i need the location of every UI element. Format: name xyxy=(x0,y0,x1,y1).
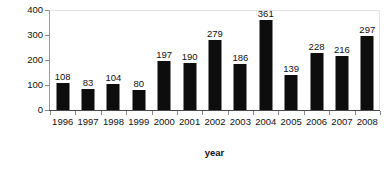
x-axis-tick-mark xyxy=(101,111,102,115)
bar-group: 104 xyxy=(101,10,126,110)
y-axis-tick-labels: 0100200300400 xyxy=(18,0,43,174)
bar xyxy=(259,20,272,110)
x-axis-tick-mark xyxy=(278,111,279,115)
x-axis-tick-label: 2003 xyxy=(230,116,251,127)
x-axis-tick-label: 2008 xyxy=(357,116,378,127)
x-axis-tick-label: 2000 xyxy=(154,116,175,127)
bar-group: 216 xyxy=(329,10,354,110)
y-axis-tick-label: 0 xyxy=(18,105,43,115)
bar-group: 361 xyxy=(253,10,278,110)
x-axis-tick-label: 1998 xyxy=(103,116,124,127)
bar-value-label: 186 xyxy=(232,53,248,63)
bar-group: 279 xyxy=(202,10,227,110)
x-axis-tick-labels: 1996199719981999200020012002200320042005… xyxy=(50,116,380,130)
x-axis-tick-mark xyxy=(380,111,381,115)
y-axis-tick-label: 100 xyxy=(18,80,43,90)
y-axis-tick-label: 200 xyxy=(18,55,43,65)
bar xyxy=(107,84,120,110)
x-axis-tick-mark xyxy=(228,111,229,115)
x-axis-tick-label: 2002 xyxy=(204,116,225,127)
y-axis-tick-label: 300 xyxy=(18,30,43,40)
bar xyxy=(183,63,196,111)
x-axis-tick-label: 1996 xyxy=(52,116,73,127)
bar-group: 80 xyxy=(126,10,151,110)
bar-value-label: 297 xyxy=(359,25,375,35)
bar-group: 228 xyxy=(304,10,329,110)
x-axis-tick-mark xyxy=(253,111,254,115)
bar-value-label: 104 xyxy=(106,73,122,83)
x-axis-tick-label: 2004 xyxy=(255,116,276,127)
bar-value-label: 228 xyxy=(309,42,325,52)
x-axis-tick-mark xyxy=(355,111,356,115)
bar xyxy=(361,36,374,110)
bar xyxy=(310,53,323,110)
bar-value-label: 80 xyxy=(134,79,145,89)
y-axis-tick-label: 400 xyxy=(18,5,43,15)
x-axis-tick-mark xyxy=(202,111,203,115)
bar xyxy=(208,40,221,110)
bars-container: 1088310480197190279186361139228216297 xyxy=(50,10,380,110)
x-axis-line xyxy=(49,110,380,111)
bar-group: 139 xyxy=(278,10,303,110)
bar-chart: Number of cases 0100200300400 1088310480… xyxy=(0,0,384,174)
bar-value-label: 279 xyxy=(207,29,223,39)
bar-value-label: 190 xyxy=(182,52,198,62)
bar-group: 108 xyxy=(50,10,75,110)
bar-value-label: 108 xyxy=(55,72,71,82)
x-axis-tick-mark xyxy=(75,111,76,115)
bar xyxy=(132,90,145,110)
bar xyxy=(285,75,298,110)
bar-group: 186 xyxy=(228,10,253,110)
bar xyxy=(82,89,95,110)
bar-value-label: 361 xyxy=(258,9,274,19)
x-axis-tick-mark xyxy=(126,111,127,115)
bar xyxy=(56,83,69,110)
x-axis-tick-label: 1997 xyxy=(77,116,98,127)
bar-value-label: 83 xyxy=(83,78,94,88)
x-axis-tick-label: 2006 xyxy=(306,116,327,127)
bar-group: 190 xyxy=(177,10,202,110)
bar-value-label: 197 xyxy=(156,50,172,60)
x-axis-tick-mark xyxy=(329,111,330,115)
x-axis-tick-mark xyxy=(50,111,51,115)
x-axis-tick-mark xyxy=(304,111,305,115)
bar-group: 83 xyxy=(75,10,100,110)
x-axis-tick-label: 2007 xyxy=(331,116,352,127)
x-axis-tick-label: 2005 xyxy=(281,116,302,127)
x-axis-tick-label: 2001 xyxy=(179,116,200,127)
bar xyxy=(158,61,171,110)
bar-group: 197 xyxy=(152,10,177,110)
x-axis-tick-mark xyxy=(152,111,153,115)
bar-group: 297 xyxy=(355,10,380,110)
x-axis-title: year xyxy=(49,147,380,158)
x-axis-tick-label: 1999 xyxy=(128,116,149,127)
bar-value-label: 216 xyxy=(334,45,350,55)
bar xyxy=(234,64,247,111)
bar-value-label: 139 xyxy=(283,64,299,74)
x-axis-tick-mark xyxy=(177,111,178,115)
bar xyxy=(335,56,348,110)
